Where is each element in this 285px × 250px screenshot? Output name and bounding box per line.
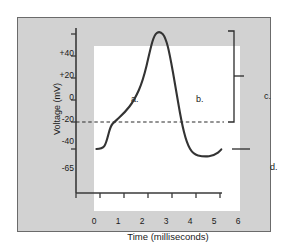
chart-svg bbox=[0, 0, 285, 250]
bracket-c bbox=[228, 31, 234, 122]
action-potential-figure: +40 +20 0 -20 -40 -65 0 1 2 3 4 5 6 Volt… bbox=[0, 0, 285, 250]
action-potential-curve bbox=[96, 32, 221, 156]
